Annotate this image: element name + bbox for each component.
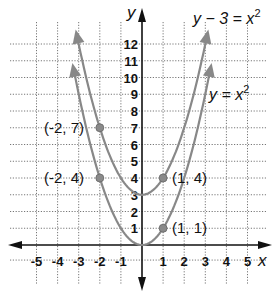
y-tick-label: 2: [131, 205, 138, 220]
y-tick-label: 10: [124, 71, 138, 86]
point-label-neg2-7: (-2, 7): [44, 119, 84, 136]
x-tick-label: -5: [31, 254, 43, 269]
x-tick-label: -2: [94, 254, 106, 269]
x-axis-label: x: [257, 251, 267, 270]
curve-arrow-icon: [69, 63, 81, 78]
equation-label-base: y = x2: [208, 83, 249, 103]
x-tick-label: 2: [181, 254, 188, 269]
x-tick-label: -3: [73, 254, 85, 269]
y-tick-label: 9: [131, 87, 138, 102]
point-label-neg2-4: (-2, 4): [44, 169, 84, 186]
curve-arrow-icon: [200, 29, 212, 44]
y-tick-label: 1: [131, 221, 138, 236]
y-tick-label: 5: [131, 154, 138, 169]
x-tick-label: -4: [52, 254, 64, 269]
x-tick-label: -1: [115, 254, 127, 269]
point-marker: [159, 174, 167, 182]
y-axis-down-arrow-icon: [138, 277, 146, 291]
y-tick-label: 7: [131, 121, 138, 136]
x-tick-label: 5: [244, 254, 251, 269]
x-tick-label: 4: [223, 254, 231, 269]
equation-label-shifted: y − 3 = x2: [192, 7, 261, 27]
y-tick-label: 8: [131, 104, 138, 119]
y-tick-label: 4: [131, 171, 139, 186]
y-axis-label: y: [126, 3, 137, 22]
axes: [8, 8, 272, 291]
point-label-1-1: (1, 1): [172, 219, 207, 236]
point-marker: [159, 224, 167, 232]
point-label-1-4: (1, 4): [172, 169, 207, 186]
point-marker: [96, 174, 104, 182]
point-marker: [96, 124, 104, 132]
curve-arrow-icon: [73, 29, 85, 44]
y-axis-up-arrow-icon: [138, 8, 146, 22]
y-tick-label: 12: [124, 37, 138, 52]
parabola-graph: -5-4-3-2-112345123456789101112 y x y − 3…: [0, 0, 276, 303]
y-tick-label: 11: [124, 54, 138, 69]
x-axis-right-arrow-icon: [258, 241, 272, 249]
x-tick-label: 3: [202, 254, 209, 269]
y-tick-label: 6: [131, 138, 138, 153]
tick-labels: -5-4-3-2-112345123456789101112: [31, 37, 251, 269]
x-tick-label: 1: [159, 254, 166, 269]
curve-arrow-icon: [203, 63, 215, 78]
x-axis-left-arrow-icon: [8, 241, 22, 249]
